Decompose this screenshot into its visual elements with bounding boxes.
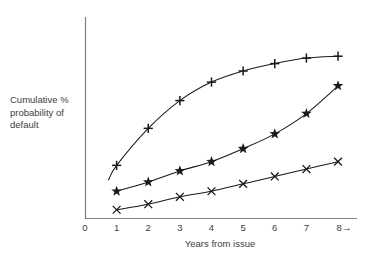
series-markers-star xyxy=(111,80,343,196)
x-tick-label-4: 4 xyxy=(204,222,220,233)
x-tick-label-1: 1 xyxy=(109,222,125,233)
series-line-high-risk xyxy=(108,56,338,180)
series-medium-risk xyxy=(111,80,343,196)
chart-figure: Cumulative % probability of default 0123… xyxy=(0,0,379,262)
plot-area xyxy=(0,0,379,262)
data-series-layer xyxy=(108,52,343,214)
x-tick-label-5: 5 xyxy=(235,222,251,233)
x-tick-label-8: 8→ xyxy=(336,222,352,233)
x-tick-label-3: 3 xyxy=(172,222,188,233)
x-tick-label-0: 0 xyxy=(77,222,93,233)
series-line-medium-risk xyxy=(117,86,338,191)
x-tick-label-2: 2 xyxy=(140,222,156,233)
x-tick-label-6: 6 xyxy=(267,222,283,233)
x-axis-title: Years from issue xyxy=(150,238,290,249)
series-low-risk xyxy=(113,158,342,214)
x-tick-label-7: 7 xyxy=(298,222,314,233)
series-markers-cross xyxy=(113,158,342,214)
series-markers-plus xyxy=(112,52,343,170)
